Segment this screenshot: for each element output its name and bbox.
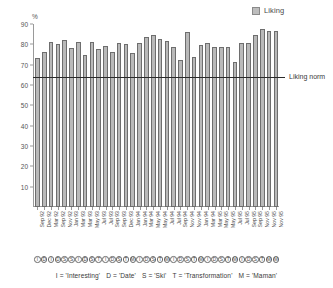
x-axis-tick: Sep 95 [252, 207, 259, 255]
bar-slot [272, 24, 279, 207]
x-axis-tick: Nov 94 [191, 207, 198, 255]
bar-slot [61, 24, 68, 207]
bar [185, 32, 190, 207]
category-code-badge: S [150, 256, 157, 263]
x-axis-tick: Jul 95 [238, 207, 245, 255]
chart-legend: Liking [252, 6, 284, 15]
category-code-slot: T [157, 256, 164, 266]
bar-slot [245, 24, 252, 207]
x-axis-tick-mark [215, 207, 216, 210]
x-axis-tick: Jul 94 [170, 207, 177, 255]
category-code-badge: S [218, 256, 225, 263]
y-axis-tick: 60 [21, 82, 33, 89]
bar [205, 43, 210, 207]
category-code-slot: T [191, 256, 198, 266]
category-code-badge: M [198, 256, 205, 263]
x-axis-tick: Jan 94 [129, 207, 136, 255]
category-code-badge: T [259, 256, 266, 263]
bar [253, 35, 258, 207]
x-axis-tick-mark [269, 207, 270, 210]
bar [103, 46, 108, 207]
bar-slot [232, 24, 239, 207]
x-axis-tick: Nov 95 [259, 207, 266, 255]
category-code-badge: D [55, 256, 62, 263]
x-axis-tick-mark [58, 207, 59, 210]
category-code-badge: S [89, 256, 96, 263]
y-axis-tick-mark [30, 146, 33, 147]
x-axis-tick-mark [228, 207, 229, 210]
category-code-badge: S [184, 256, 191, 263]
category-code-badge: T [225, 256, 232, 263]
category-code-slot: T [123, 256, 130, 266]
x-axis-tick-mark [242, 207, 243, 210]
x-axis-tick: May 95 [225, 207, 232, 255]
x-axis-tick-mark [153, 207, 154, 210]
x-axis-tick-mark [99, 207, 100, 210]
bar [212, 47, 217, 207]
x-axis-tick: Sep 95 [245, 207, 252, 255]
bar [165, 41, 170, 207]
x-axis-tick: Jan 93 [68, 207, 75, 255]
y-axis-tick: 80 [21, 41, 33, 48]
bar-slot [218, 24, 225, 207]
bar-slot [102, 24, 109, 207]
category-code-slot: S [252, 256, 259, 266]
x-axis-tick-mark [167, 207, 168, 210]
category-code-badge: I [136, 256, 143, 263]
category-code-slot: D [211, 256, 218, 266]
category-code-slot: S [150, 256, 157, 266]
category-code-slot: M [198, 256, 205, 266]
bar [35, 58, 40, 207]
bar [117, 43, 122, 207]
x-axis-tick-mark [235, 207, 236, 210]
y-axis-tick-mark [30, 105, 33, 106]
x-axis-tick-mark [276, 207, 277, 210]
category-code-badge: M [164, 256, 171, 263]
y-axis-tick-label: 40 [21, 122, 28, 129]
y-axis-tick-label: 10 [21, 183, 28, 190]
bar [137, 43, 142, 207]
x-axis-tick-mark [85, 207, 86, 210]
bar-slot [225, 24, 232, 207]
bar-slot [95, 24, 102, 207]
x-axis-tick-mark [221, 207, 222, 210]
bar [274, 31, 279, 207]
category-code-slot: I [170, 256, 177, 266]
bar [56, 44, 61, 207]
x-axis-tick-mark [146, 207, 147, 210]
x-axis-tick: Sep 93 [116, 207, 123, 255]
x-axis-category-codes: IDIDSSIDSTIDSTMIDSTMIDSTMIDSTMIDSTMM [34, 256, 279, 266]
category-code-badge: D [211, 256, 218, 263]
category-code-badge: T [157, 256, 164, 263]
x-axis-tick-mark [65, 207, 66, 210]
x-axis-tick: Mar 95 [211, 207, 218, 255]
liking-bar-chart: Liking % 908070605040302010 Liking norm … [0, 0, 333, 288]
x-axis-tick-mark [194, 207, 195, 210]
x-axis-tick: Dec 93 [123, 207, 130, 255]
x-axis-tick-mark [140, 207, 141, 210]
bar-slot [177, 24, 184, 207]
x-axis-tick: Nov 92 [61, 207, 68, 255]
bar-slot [34, 24, 41, 207]
bar [233, 62, 238, 207]
bar-slot [191, 24, 198, 207]
bar-slot [252, 24, 259, 207]
bar [178, 60, 183, 207]
category-code-slot: S [68, 256, 75, 266]
bar-slot [68, 24, 75, 207]
x-axis-tick-mark [44, 207, 45, 210]
bar-slot [116, 24, 123, 207]
y-axis-tick: 90 [21, 21, 33, 28]
x-axis-tick: Nov 94 [184, 207, 191, 255]
legend-swatch-liking [252, 7, 260, 15]
x-axis-tick: Jul 94 [163, 207, 170, 255]
bar-slot [41, 24, 48, 207]
bar [76, 42, 81, 207]
category-code-slot: S [89, 256, 96, 266]
category-code-badge: T [191, 256, 198, 263]
x-axis-tick: Mar 94 [143, 207, 150, 255]
bar-slot [204, 24, 211, 207]
x-axis-tick: Dec 92 [41, 207, 48, 255]
x-axis-tick: Sep 93 [109, 207, 116, 255]
category-code-slot: M [232, 256, 239, 266]
